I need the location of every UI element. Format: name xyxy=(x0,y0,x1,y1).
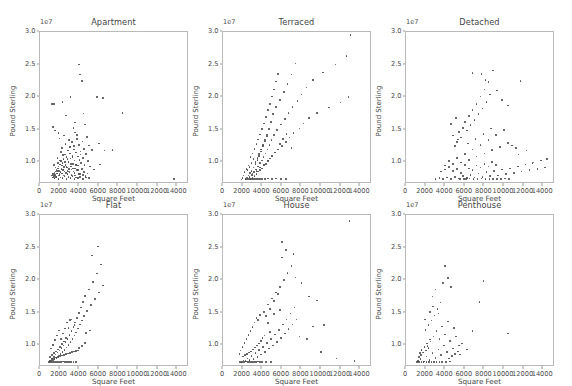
data-point xyxy=(83,171,85,173)
data-point xyxy=(431,320,433,322)
data-point xyxy=(71,169,73,171)
data-point xyxy=(420,358,422,360)
y-tick-mark xyxy=(220,344,223,345)
data-point xyxy=(91,255,93,257)
x-tick-mark xyxy=(339,183,340,186)
x-tick-mark xyxy=(300,183,301,186)
x-tick-label: 2000 xyxy=(50,187,67,195)
subplot-flat: Flat 1e7 Pound Sterling Square Feet 1.01… xyxy=(39,214,188,366)
data-point xyxy=(100,264,102,266)
data-point xyxy=(426,361,428,363)
data-point xyxy=(250,330,252,332)
data-point xyxy=(68,176,70,178)
x-tick-label: 14000 xyxy=(166,370,187,378)
data-point xyxy=(79,159,81,161)
data-point xyxy=(248,334,250,336)
data-point xyxy=(464,164,466,166)
data-point xyxy=(58,166,60,168)
data-point xyxy=(264,139,266,141)
data-point xyxy=(284,333,286,335)
data-point xyxy=(444,165,446,167)
y-tick-label: 2.0 xyxy=(25,92,36,100)
data-point xyxy=(62,101,64,103)
data-point xyxy=(288,112,290,114)
data-point xyxy=(82,178,84,180)
data-point xyxy=(440,171,442,173)
data-point xyxy=(294,307,296,309)
subplot-apartment: Apartment 1e7 Pound Sterling Square Feet… xyxy=(39,31,188,183)
data-point xyxy=(354,360,356,362)
data-point xyxy=(499,146,501,148)
data-point xyxy=(62,162,64,164)
data-point xyxy=(438,313,440,315)
data-point xyxy=(447,277,449,279)
data-point xyxy=(251,162,253,164)
x-tick-mark xyxy=(483,183,484,186)
plot-area xyxy=(405,31,554,183)
y-tick-mark xyxy=(403,63,406,64)
panel-title: Flat xyxy=(39,200,188,210)
data-point xyxy=(269,158,271,160)
data-point xyxy=(52,126,54,128)
x-tick-label: 12000 xyxy=(329,370,350,378)
data-point xyxy=(282,324,284,326)
data-point xyxy=(286,319,288,321)
data-point xyxy=(98,143,100,145)
data-point xyxy=(537,168,539,170)
data-point xyxy=(63,345,65,347)
data-point xyxy=(267,149,269,151)
data-point xyxy=(340,102,342,104)
data-point xyxy=(289,137,291,139)
data-point xyxy=(270,121,272,123)
subplot-detached: Detached 1e7 Pound Sterling Square Feet … xyxy=(405,31,554,183)
data-point xyxy=(74,178,76,180)
data-point xyxy=(263,156,265,158)
data-point xyxy=(70,158,72,160)
data-point xyxy=(72,168,74,170)
data-point xyxy=(77,350,79,352)
data-point xyxy=(263,311,265,313)
data-point xyxy=(257,159,259,161)
data-point xyxy=(316,300,318,302)
data-point xyxy=(480,96,482,98)
data-point xyxy=(67,338,69,340)
data-point xyxy=(252,153,254,155)
y-tick-label: 2.0 xyxy=(25,275,36,283)
data-point xyxy=(74,324,76,326)
y-tick-label: 1.5 xyxy=(25,125,36,133)
data-point xyxy=(64,154,66,156)
data-point xyxy=(54,339,56,341)
y-tick-mark xyxy=(220,31,223,32)
data-point xyxy=(480,167,482,169)
data-point xyxy=(62,177,64,179)
data-point xyxy=(273,89,275,91)
data-point xyxy=(57,168,59,170)
data-point xyxy=(295,63,297,65)
data-point xyxy=(57,352,59,354)
data-point xyxy=(299,128,301,130)
data-point xyxy=(255,163,257,165)
data-point xyxy=(260,340,262,342)
data-point xyxy=(515,147,517,149)
data-point xyxy=(263,164,265,166)
x-tick-mark xyxy=(241,183,242,186)
data-point xyxy=(77,169,79,171)
x-tick-mark xyxy=(97,366,98,369)
data-point xyxy=(260,151,262,153)
plot-area xyxy=(405,214,554,366)
data-point xyxy=(454,353,456,355)
data-point xyxy=(70,96,72,98)
data-point xyxy=(270,338,272,340)
data-point xyxy=(80,151,82,153)
y-axis-label: Pound Sterling xyxy=(375,244,383,344)
x-tick-label: 2000 xyxy=(50,370,67,378)
data-point xyxy=(491,161,493,163)
data-point xyxy=(85,177,87,179)
y-tick-label: 1.0 xyxy=(391,340,402,348)
data-point xyxy=(255,352,257,354)
data-point xyxy=(435,357,437,359)
y-tick-mark xyxy=(403,161,406,162)
data-point xyxy=(72,156,74,158)
data-point xyxy=(62,154,64,156)
data-point xyxy=(429,311,431,313)
